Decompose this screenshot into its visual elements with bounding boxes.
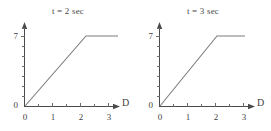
x-tick-label-2-right: 2 [214, 112, 219, 122]
x-axis-ticks-right [174, 103, 244, 107]
x-axis-name-right: D [257, 97, 264, 108]
plot-area-right [135, 0, 271, 131]
y-tick-label-0-left: 0 [6, 100, 18, 110]
x-tick-label-0-left: 0 [23, 112, 28, 122]
x-axis-ticks-left [39, 103, 109, 107]
x-tick-label-3-right: 3 [242, 112, 247, 122]
x-axis-arrow-left [113, 104, 120, 109]
x-tick-label-0-right: 0 [158, 112, 163, 122]
y-axis-ticks-right [156, 29, 160, 97]
two-panel-line-chart-figure: t = 2 sec [0, 0, 271, 131]
y-axis-arrow-left [22, 22, 27, 29]
data-series-left [25, 36, 118, 106]
x-tick-label-3-left: 3 [107, 112, 112, 122]
y-axis-arrow-right [157, 22, 162, 29]
chart-panel-right: t = 3 sec [135, 0, 271, 131]
y-tick-label-7-right: 7 [141, 31, 153, 41]
x-tick-label-2-left: 2 [79, 112, 84, 122]
x-axis-name-left: D [122, 97, 129, 108]
chart-panel-left: t = 2 sec [0, 0, 136, 131]
x-tick-label-1-right: 1 [186, 112, 191, 122]
x-tick-label-1-left: 1 [51, 112, 56, 122]
y-tick-label-0-right: 0 [141, 100, 153, 110]
y-axis-ticks-left [21, 29, 25, 97]
data-series-right [160, 36, 245, 106]
x-axis-arrow-right [248, 104, 255, 109]
y-tick-label-7-left: 7 [6, 31, 18, 41]
plot-area-left [0, 0, 136, 131]
